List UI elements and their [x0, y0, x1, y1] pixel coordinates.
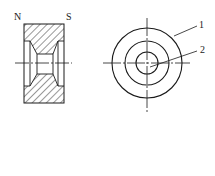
pole-label-n: N — [14, 12, 21, 22]
pole-label-s: S — [66, 12, 72, 22]
section-view — [15, 24, 72, 103]
end-view — [103, 18, 197, 112]
drawing-canvas — [0, 0, 215, 176]
callout-label-1: 1 — [199, 20, 204, 30]
leader-line-1 — [174, 26, 197, 36]
callout-label-2: 2 — [200, 45, 205, 55]
